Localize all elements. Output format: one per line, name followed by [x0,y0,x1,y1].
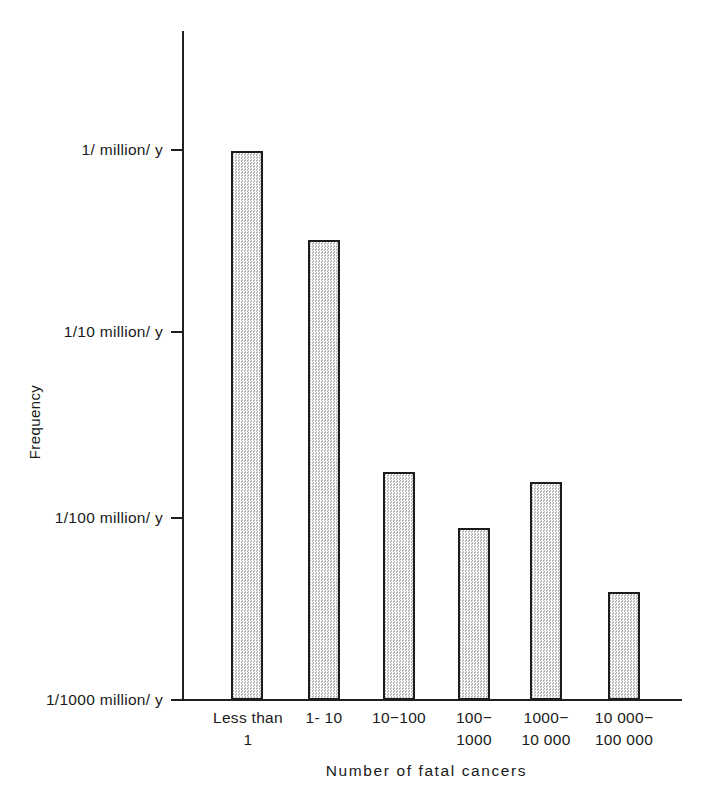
x-tick-label: 10 000− 100 000 [568,707,680,751]
bar [383,472,415,700]
y-axis-title: Frequency [26,385,43,459]
y-tick-mark [171,517,183,519]
y-tick-label: 1/100 million/ y [55,510,163,526]
y-tick-label: 1/10 million/ y [64,324,163,340]
bar [458,528,490,700]
bar [608,592,640,700]
bar [530,482,562,700]
y-tick-label: 1/1000 million/ y [46,692,163,708]
bar [308,240,340,700]
y-tick-mark [171,331,183,333]
y-tick-mark [171,699,183,701]
bar [231,151,263,700]
y-axis-line [182,31,184,701]
y-tick-label: 1/ million/ y [82,142,163,158]
y-tick-mark [171,149,183,151]
bar-chart-figure: Frequency 1/ million/ y1/10 million/ y1/… [0,0,703,804]
x-axis-title: Number of fatal cancers [0,762,703,780]
